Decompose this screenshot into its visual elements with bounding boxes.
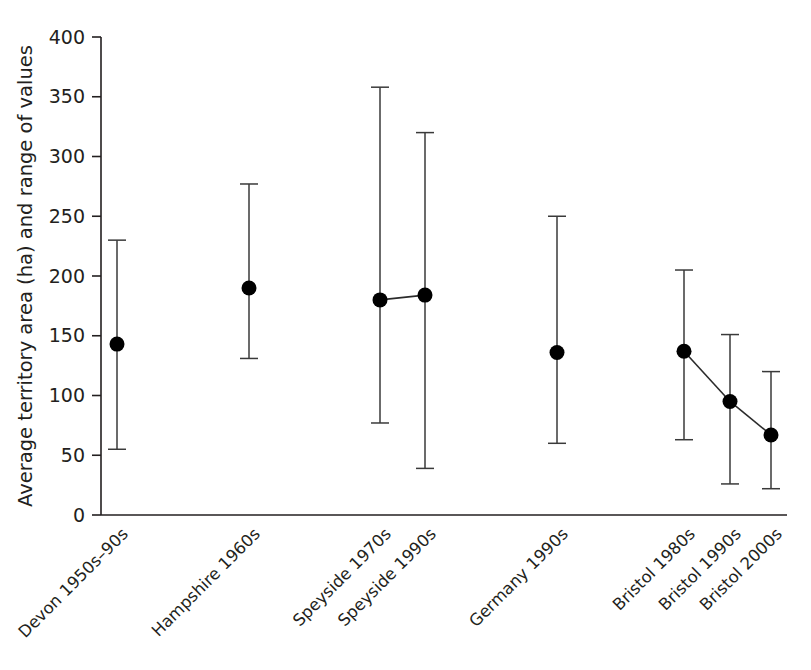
y-axis-tick-label: 300 — [49, 145, 85, 167]
y-axis-tick-label: 200 — [49, 265, 85, 287]
data-point-group — [108, 240, 126, 449]
data-point-group — [548, 216, 566, 443]
data-point-marker — [110, 337, 125, 352]
y-axis-tick-label: 50 — [61, 444, 85, 466]
data-point-group — [416, 133, 434, 469]
y-axis-tick-label: 100 — [49, 384, 85, 406]
data-point-group — [675, 270, 693, 440]
chart-figure: 050100150200250300350400 Devon 1950s–90s… — [0, 0, 811, 670]
data-point-group — [240, 184, 258, 358]
data-point-marker — [242, 280, 257, 295]
data-point-marker — [550, 345, 565, 360]
data-point-marker — [677, 344, 692, 359]
y-axis-tick-label: 350 — [49, 85, 85, 107]
x-axis-category-label: Germany 1990s — [465, 524, 572, 631]
x-axis-category-label: Hampshire 1960s — [148, 524, 264, 640]
y-axis-title-text: Average territory area (ha) and range of… — [14, 45, 37, 507]
series-connector-line — [684, 351, 730, 401]
y-axis-tick-label: 400 — [49, 26, 85, 48]
y-axis-tick-label: 150 — [49, 324, 85, 346]
data-point-marker — [764, 427, 779, 442]
data-point-marker — [373, 292, 388, 307]
data-series — [108, 87, 780, 489]
x-axis-category-label: Devon 1950s–90s — [15, 524, 132, 641]
territory-area-scatter-chart: 050100150200250300350400 Devon 1950s–90s… — [0, 0, 811, 670]
y-axis-title: Average territory area (ha) and range of… — [14, 45, 37, 507]
y-axis-tick-label: 250 — [49, 205, 85, 227]
category-labels: Devon 1950s–90sHampshire 1960sSpeyside 1… — [15, 524, 786, 641]
y-axis: 050100150200250300350400 — [49, 26, 101, 526]
y-axis-tick-label: 0 — [73, 504, 85, 526]
data-point-group — [721, 335, 739, 484]
series-connector-line — [730, 401, 771, 434]
data-point-marker — [723, 394, 738, 409]
data-point-marker — [418, 288, 433, 303]
data-point-group — [371, 87, 389, 423]
